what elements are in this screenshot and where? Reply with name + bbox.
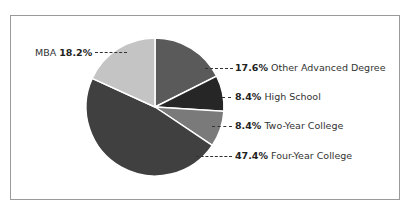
label-hs: 8.4% High School — [235, 91, 321, 103]
label-other: 17.6% Other Advanced Degree — [235, 62, 386, 74]
leader-line-hs — [222, 97, 231, 98]
label-mba: MBA 18.2% — [35, 47, 92, 59]
label-mba-name: MBA — [35, 47, 56, 58]
label-four: 47.4% Four-Year College — [235, 150, 352, 162]
label-other-name: Other Advanced Degree — [271, 62, 386, 73]
leader-line-four — [196, 156, 232, 157]
leader-line-other — [205, 68, 233, 69]
label-two-name: Two-Year College — [264, 120, 343, 131]
label-two: 8.4% Two-Year College — [235, 120, 343, 132]
label-other-pct: 17.6% — [235, 62, 268, 73]
label-two-pct: 8.4% — [235, 120, 261, 131]
label-hs-pct: 8.4% — [235, 91, 261, 102]
label-four-pct: 47.4% — [235, 150, 268, 161]
label-hs-name: High School — [264, 91, 320, 102]
label-mba-pct: 18.2% — [59, 47, 92, 58]
pie-chart — [0, 0, 414, 213]
label-four-name: Four-Year College — [271, 150, 352, 161]
leader-line-mba — [95, 52, 127, 53]
leader-line-two — [212, 126, 232, 127]
